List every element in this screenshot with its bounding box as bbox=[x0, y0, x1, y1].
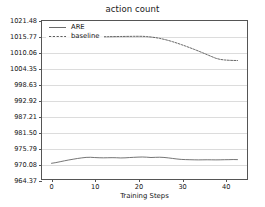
y-tick-label: 1021.48 bbox=[10, 17, 37, 25]
x-tick-label: 30 bbox=[178, 183, 186, 191]
y-tick-mark bbox=[39, 181, 42, 182]
y-tick-label: 975.79 bbox=[14, 145, 37, 153]
x-tick-mark bbox=[183, 179, 184, 182]
x-tick-label: 20 bbox=[135, 183, 143, 191]
y-tick-label: 964.37 bbox=[14, 177, 37, 185]
y-tick-label: 992.92 bbox=[14, 97, 37, 105]
x-tick-mark bbox=[139, 179, 140, 182]
legend-line-dashed bbox=[49, 33, 66, 40]
y-tick-label: 970.08 bbox=[14, 161, 37, 169]
legend-label-baseline: baseline bbox=[71, 32, 99, 41]
plot-axes: 1021.481015.771010.061004.35998.63992.92… bbox=[41, 20, 248, 180]
chart-figure: action count 1021.481015.771010.061004.3… bbox=[0, 0, 265, 207]
x-tick-mark bbox=[52, 179, 53, 182]
x-tick-mark bbox=[95, 179, 96, 182]
x-tick-label: 10 bbox=[91, 183, 99, 191]
x-tick-mark bbox=[226, 179, 227, 182]
y-tick-label: 1015.77 bbox=[10, 33, 37, 41]
y-tick-label: 998.63 bbox=[14, 81, 37, 89]
chart-title: action count bbox=[0, 4, 265, 14]
y-tick-label: 987.21 bbox=[14, 113, 37, 121]
chart-legend: ARE baseline bbox=[46, 21, 104, 43]
y-tick-label: 981.50 bbox=[14, 129, 37, 137]
legend-label-are: ARE bbox=[71, 23, 85, 32]
y-tick-label: 1004.35 bbox=[10, 65, 37, 73]
series-line-are bbox=[52, 157, 238, 163]
series-canvas bbox=[42, 21, 247, 179]
x-tick-label: 0 bbox=[49, 183, 53, 191]
legend-line-solid bbox=[49, 24, 66, 31]
legend-item-baseline: baseline bbox=[49, 32, 99, 41]
legend-item-are: ARE bbox=[49, 23, 99, 32]
x-tick-label: 40 bbox=[222, 183, 230, 191]
y-tick-label: 1010.06 bbox=[10, 49, 37, 57]
x-axis-label: Training Steps bbox=[41, 192, 248, 200]
